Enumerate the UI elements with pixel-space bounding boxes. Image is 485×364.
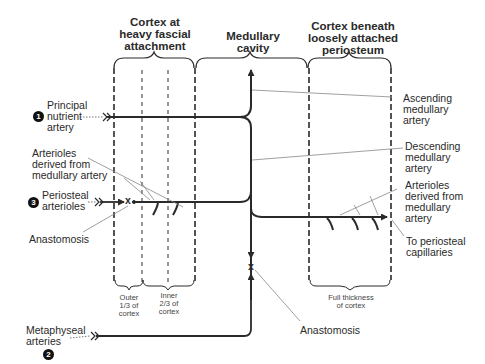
medullary-to-periosteal: [251, 208, 387, 230]
label-principal-nutrient-artery: Principal nutrient artery: [47, 100, 87, 133]
label-descending-medullary-artery: Descending medullary artery: [405, 141, 460, 174]
brace-cortex-heavy: [114, 52, 194, 68]
label-inner-two-thirds: Inner 2/3 of cortex: [152, 292, 186, 316]
label-periosteal-arterioles: Periosteal arterioles: [42, 190, 89, 212]
label-anastomosis-bottom: Anastomosis: [300, 325, 360, 336]
marker-1: 1: [33, 111, 44, 122]
label-arterioles-right: Arterioles derived from medullary artery: [405, 180, 463, 224]
brace-outer-third: [115, 280, 143, 290]
brace-medullary: [196, 52, 307, 68]
periosteal-line-left: [88, 191, 251, 215]
bone-blood-supply-diagram: Cortex at heavy fascial attachment Medul…: [0, 0, 485, 364]
label-full-thickness: Full thickness of cortex: [315, 294, 387, 310]
cortex-boundaries: [114, 68, 391, 282]
header-cortex-heavy: Cortex at heavy fascial attachment: [118, 16, 192, 52]
marker-2: 2: [43, 349, 54, 360]
label-ascending-medullary-artery: Ascending medullary artery: [403, 93, 452, 126]
header-medullary-cavity: Medullary cavity: [216, 30, 290, 54]
principal-nutrient-artery: [80, 70, 251, 300]
marker-3: 3: [28, 197, 39, 208]
anastomosis-mark-bottom: x: [248, 261, 254, 272]
anastomosis-mark-left: x: [125, 195, 131, 206]
label-to-periosteal-capillaries: To periosteal capillaries: [406, 236, 466, 258]
label-arterioles-left: Arterioles derived from medullary artery: [32, 148, 107, 181]
header-cortex-loose: Cortex beneath loosely attached perioste…: [308, 20, 398, 56]
brace-full-thickness: [310, 280, 390, 290]
label-anastomosis-left: Anastomosis: [29, 234, 89, 245]
label-metaphyseal-arteries: Metaphyseal arteries: [26, 325, 86, 347]
label-outer-third: Outer 1/3 of cortex: [113, 294, 145, 318]
